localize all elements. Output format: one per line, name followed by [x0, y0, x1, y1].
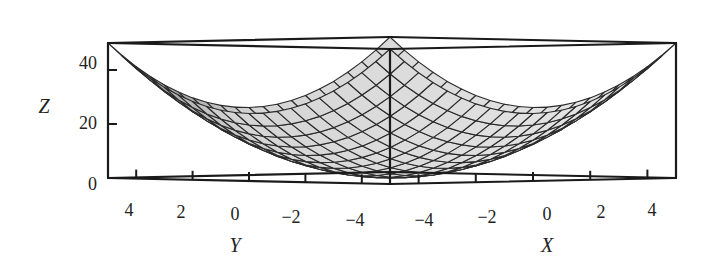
x-tick-label-2: 2: [597, 202, 606, 222]
z-tick-label-0: 0: [88, 174, 97, 194]
x-axis-label: X: [540, 234, 554, 256]
y-axis-label: Y: [229, 234, 242, 256]
x-tick-label-neg2: −2: [477, 207, 496, 227]
y-tick-label-neg2: −2: [281, 207, 300, 227]
z-axis-label: Z: [38, 95, 50, 117]
x-tick-label-neg4: −4: [414, 210, 433, 230]
y-tick-label-neg4: −4: [345, 210, 364, 230]
box-edge-top-back-left: [108, 37, 390, 43]
paraboloid-surface: [108, 37, 676, 178]
y-tick-label-2: 2: [177, 202, 186, 222]
box-edge-top-left: [108, 43, 390, 49]
z-tick-label-40: 40: [79, 53, 97, 73]
surface-plot: 40 20 0 Z 4 2 0 −2 −4 Y −4 −2 0 2 4 X: [0, 0, 714, 274]
z-tick-label-20: 20: [79, 113, 97, 133]
y-tick-label-0: 0: [231, 204, 240, 224]
y-tick-label-4: 4: [125, 200, 134, 220]
x-tick-label-4: 4: [648, 200, 657, 220]
x-tick-label-0: 0: [543, 204, 552, 224]
box-edge-top-back-right: [390, 37, 676, 43]
box-edge-top-right: [390, 43, 676, 49]
